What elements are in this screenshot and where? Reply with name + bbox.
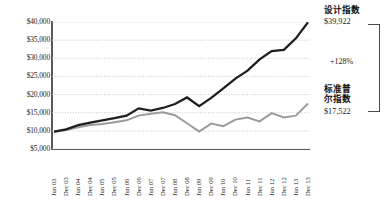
x-axis-tick-text: Dec 03: [62, 177, 70, 196]
x-axis-tick-text: Jun 03: [50, 179, 58, 196]
x-axis-tick-label: Jun 13: [290, 150, 301, 196]
x-axis-tick-label: Jun 12: [266, 150, 277, 196]
x-axis-tick-text: Dec 07: [159, 177, 167, 196]
delta-percent-label: +128%: [330, 57, 353, 66]
y-axis-tick-label: $30,000: [2, 54, 50, 62]
x-axis-tick-text: Dec 12: [280, 177, 288, 196]
x-axis-tick-text: Jun 04: [74, 179, 82, 196]
x-axis-tick-text: Dec 11: [255, 177, 263, 196]
x-axis-tick-label: Jun 03: [49, 150, 60, 196]
x-axis-tick-label: Jun 09: [194, 150, 205, 196]
x-axis-tick-text: Dec 08: [183, 177, 191, 196]
x-axis-tick-text: Jun 10: [219, 179, 227, 196]
x-axis-tick-label: Jun 05: [97, 150, 108, 196]
x-axis-tick-label: Dec 10: [230, 150, 241, 196]
design-index-label: 设计指数: [324, 5, 368, 15]
sp-index-label: 标准普尔指数: [324, 84, 354, 104]
gridlines: [52, 22, 310, 149]
chart-annotations: 设计指数 $39,922 +128% 标准普尔指数 $17,522: [312, 0, 389, 204]
bracket-bottom-arm: [368, 111, 380, 112]
x-axis-tick-label: Jun 07: [145, 150, 156, 196]
x-axis-tick-label: Dec 09: [206, 150, 217, 196]
x-axis-tick-text: Jun 13: [292, 179, 300, 196]
x-axis-tick-text: Jun 08: [171, 179, 179, 196]
x-axis-tick-text: Jun 12: [268, 179, 276, 196]
y-axis-tick-label: $10,000: [2, 127, 50, 135]
x-axis-labels: Jun 03Dec 03Jun 04Dec 04Jun 05Dec 05Jun …: [52, 150, 310, 204]
x-axis-tick-label: Dec 04: [85, 150, 96, 196]
x-axis-tick-label: Dec 12: [278, 150, 289, 196]
x-axis-tick-label: Jun 08: [169, 150, 180, 196]
x-axis-tick-label: Jun 10: [218, 150, 229, 196]
y-axis-labels: $40,000$35,000$30,000$25,000$20,000$15,0…: [0, 0, 50, 204]
x-axis-tick-label: Dec 08: [182, 150, 193, 196]
x-axis-tick-label: Jun 06: [121, 150, 132, 196]
y-axis-tick-label: $35,000: [2, 36, 50, 44]
sp-index-value: $17,522: [324, 107, 351, 116]
series-line-sp-index: [54, 104, 308, 132]
x-axis-tick-label: Jun 04: [73, 150, 84, 196]
y-axis-tick-label: $15,000: [2, 109, 50, 117]
plot-area: [52, 22, 310, 149]
x-axis-tick-text: Dec 05: [110, 177, 118, 196]
x-axis-tick-text: Dec 09: [207, 177, 215, 196]
x-axis-tick-label: Dec 03: [61, 150, 72, 196]
x-axis-tick-label: Jun 11: [242, 150, 253, 196]
series-lines: [54, 22, 308, 132]
bracket-spine: [379, 24, 380, 112]
plot-svg: [52, 22, 310, 149]
bracket-connector: [368, 24, 380, 112]
x-axis-tick-text: Jun 11: [243, 179, 251, 196]
x-axis-tick-label: Dec 11: [254, 150, 265, 196]
y-axis-tick-label: $5,000: [2, 145, 50, 153]
design-index-value: $39,922: [324, 17, 351, 26]
x-axis-tick-text: Jun 05: [98, 179, 106, 196]
x-axis-tick-text: Jun 07: [147, 179, 155, 196]
chart-root: $40,000$35,000$30,000$25,000$20,000$15,0…: [0, 0, 389, 204]
x-axis-tick-label: Dec 06: [133, 150, 144, 196]
y-axis-tick-label: $25,000: [2, 72, 50, 80]
x-axis-tick-label: Dec 05: [109, 150, 120, 196]
x-axis-tick-label: Dec 07: [157, 150, 168, 196]
x-axis-tick-text: Dec 04: [86, 177, 94, 196]
y-axis-tick-label: $40,000: [2, 18, 50, 26]
x-axis-tick-text: Dec 10: [231, 177, 239, 196]
x-axis-tick-text: Dec 13: [304, 177, 312, 196]
x-axis-tick-text: Jun 06: [122, 179, 130, 196]
y-axis-tick-label: $20,000: [2, 91, 50, 99]
x-axis-tick-text: Dec 06: [134, 177, 142, 196]
x-axis-tick-text: Jun 09: [195, 179, 203, 196]
